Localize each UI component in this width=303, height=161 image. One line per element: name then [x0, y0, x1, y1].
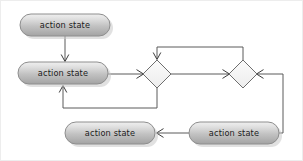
state-body: [20, 14, 110, 36]
edge-middle-to-decision-left: [108, 70, 144, 79]
edge-decision-left-to-decision-right: [171, 70, 230, 79]
state-body: [189, 122, 279, 144]
state-bottom-left[interactable]: action state: [65, 122, 158, 147]
decision-diamond-icon: [143, 60, 171, 88]
state-middle-left[interactable]: action state: [18, 62, 111, 87]
decision-right[interactable]: [229, 60, 257, 88]
state-top-left[interactable]: action state: [20, 14, 113, 39]
state-body: [18, 62, 108, 84]
edge-decision-left-bottom-to-middle-state: [59, 86, 157, 109]
state-bottom-right[interactable]: action state: [189, 122, 282, 147]
edge-bottom-right-to-bottom-left: [157, 129, 193, 138]
decision-left[interactable]: [143, 60, 171, 88]
edge-decision-right-top-to-decision-left-top: [153, 47, 243, 60]
activity-diagram-canvas: action state action state action state a…: [0, 0, 303, 161]
state-body: [65, 122, 155, 144]
decision-diamond-icon: [229, 60, 257, 88]
activity-diagram-svg: action state action state action state a…: [0, 0, 303, 161]
edge-top-to-middle: [61, 36, 69, 62]
